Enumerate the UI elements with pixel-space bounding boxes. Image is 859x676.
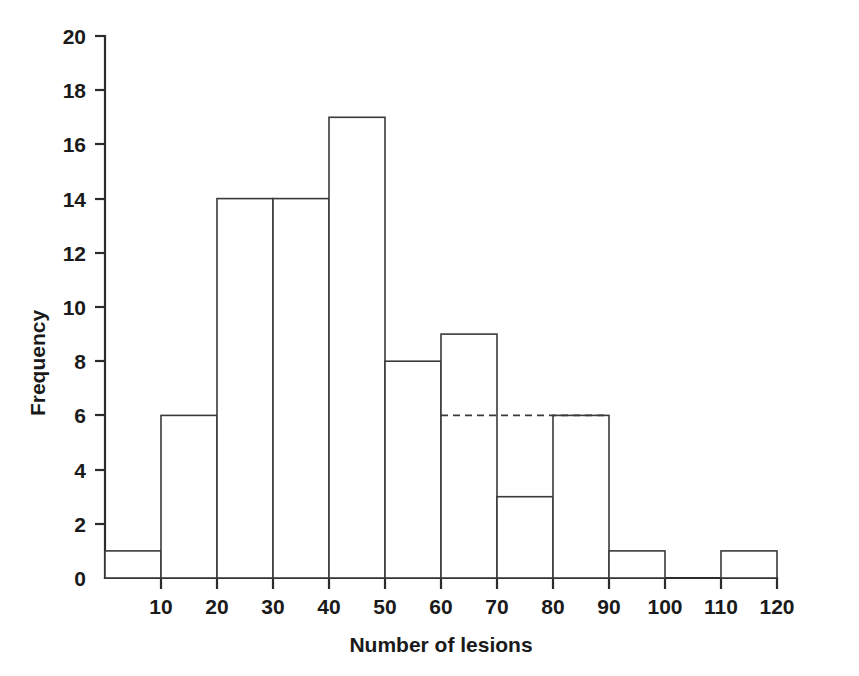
x-axis-tick-labels: 10 20 30 40 50 60 70 80 90 100 110 120 xyxy=(149,595,794,618)
histogram-bar-30-40 xyxy=(273,199,329,578)
y-axis-title: Frequency xyxy=(26,310,49,417)
y-tick-label-8: 8 xyxy=(74,350,86,373)
y-tick-label-2: 2 xyxy=(74,513,86,536)
histogram-bar-0-10 xyxy=(105,551,161,578)
y-axis-title-text: Frequency xyxy=(26,310,49,417)
y-tick-label-20: 20 xyxy=(63,25,86,48)
histogram-bar-60-70 xyxy=(441,334,497,578)
x-axis-title-text: Number of lesions xyxy=(349,633,532,656)
histogram-bar-80-90 xyxy=(553,415,609,578)
x-tick-label-80: 80 xyxy=(541,595,564,618)
histogram-bar-110-120 xyxy=(721,551,777,578)
x-tick-label-20: 20 xyxy=(205,595,228,618)
x-tick-label-60: 60 xyxy=(429,595,452,618)
histogram-bar-50-60 xyxy=(385,361,441,578)
y-tick-label-6: 6 xyxy=(74,404,86,427)
x-tick-label-40: 40 xyxy=(317,595,340,618)
histogram-bar-40-50 xyxy=(329,117,385,578)
x-tick-label-120: 120 xyxy=(759,595,794,618)
histogram-bar-20-30 xyxy=(217,199,273,578)
x-tick-label-100: 100 xyxy=(647,595,682,618)
histogram-bar-10-20 xyxy=(161,415,217,578)
x-tick-label-30: 30 xyxy=(261,595,284,618)
y-tick-label-18: 18 xyxy=(63,79,87,102)
y-tick-label-10: 10 xyxy=(63,296,86,319)
histogram-figure: Frequency 20 18 16 14 12 10 8 6 xyxy=(0,0,859,676)
y-tick-label-0: 0 xyxy=(74,567,86,590)
y-tick-label-14: 14 xyxy=(63,188,87,211)
y-tick-label-12: 12 xyxy=(63,242,86,265)
x-axis-ticks xyxy=(161,578,777,589)
x-tick-label-110: 110 xyxy=(704,595,738,618)
x-tick-label-10: 10 xyxy=(149,595,172,618)
y-axis-ticks xyxy=(95,36,105,524)
y-tick-label-16: 16 xyxy=(63,133,86,156)
histogram-bars xyxy=(105,117,777,578)
histogram-bar-70-80 xyxy=(497,497,553,578)
x-tick-label-90: 90 xyxy=(597,595,620,618)
histogram-bar-90-100 xyxy=(609,551,665,578)
histogram-chart: Frequency 20 18 16 14 12 10 8 6 xyxy=(0,0,859,676)
x-tick-label-70: 70 xyxy=(485,595,508,618)
y-axis-tick-labels: 20 18 16 14 12 10 8 6 4 2 0 xyxy=(63,25,87,590)
y-tick-label-4: 4 xyxy=(74,459,86,482)
x-tick-label-50: 50 xyxy=(373,595,396,618)
